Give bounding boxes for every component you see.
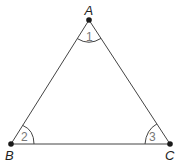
vertex-label-c: C <box>165 148 175 163</box>
vertex-point-b <box>8 141 14 147</box>
angle-label-1: 1 <box>86 30 93 44</box>
vertex-label-a: A <box>84 3 94 18</box>
vertex-point-a <box>86 17 92 23</box>
vertex-label-b: B <box>5 148 14 163</box>
edge-ac <box>89 20 170 144</box>
angle-arcs <box>23 38 157 144</box>
angle-label-2: 2 <box>21 130 28 144</box>
triangle-diagram: A B C 1 2 3 <box>0 0 180 164</box>
angle-label-3: 3 <box>149 130 156 144</box>
vertex-point-c <box>167 141 173 147</box>
